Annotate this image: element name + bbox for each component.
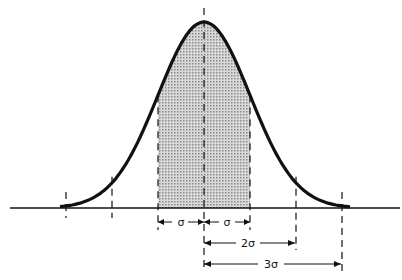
- three-sigma-dimension: 3σ: [204, 256, 341, 271]
- minus-sigma-label: σ: [178, 216, 185, 229]
- two-sigma-label: 2σ: [241, 237, 255, 250]
- sigma-dimension-plus: σ: [204, 214, 250, 229]
- sigma-dimension-minus: σ: [158, 214, 204, 229]
- three-sigma-label: 3σ: [264, 258, 278, 271]
- plus-sigma-label: σ: [224, 216, 231, 229]
- sigma-markers: [66, 8, 342, 272]
- normal-distribution-diagram: σ σ 2σ 3σ: [0, 0, 402, 280]
- two-sigma-dimension: 2σ: [204, 235, 295, 250]
